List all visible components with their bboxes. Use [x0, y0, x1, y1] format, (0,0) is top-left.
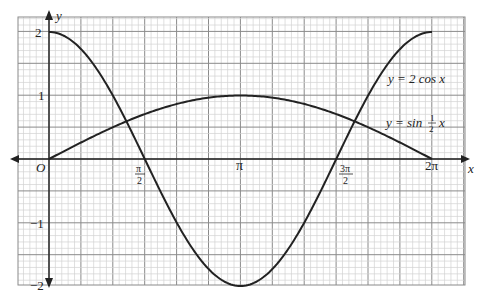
cos-curve-label: y = 2 cos x — [386, 71, 445, 86]
x-tick-three-half-pi-den: 2 — [343, 175, 348, 186]
y-axis-up-arrow-icon — [45, 10, 53, 20]
x-tick-two-pi: 2π — [425, 158, 439, 173]
y-tick-minus-2: −2 — [30, 278, 44, 293]
x-tick-three-half-pi-num: 3π — [340, 163, 350, 174]
svg-text:x: x — [438, 115, 445, 130]
x-tick-pi: π — [236, 158, 243, 173]
grid — [18, 17, 465, 285]
svg-text:y = sin: y = sin — [384, 115, 422, 130]
x-axis-label: x — [467, 161, 474, 176]
svg-text:1: 1 — [430, 113, 435, 123]
chart: y x O 2 1 −1 −2 π 2 π 3π 2 2π y = 2 cos … — [0, 0, 481, 299]
sin-curve-label: y = sin 1 2 x — [384, 113, 445, 134]
origin-label: O — [36, 160, 46, 175]
x-tick-half-pi-den: 2 — [137, 175, 142, 186]
svg-text:2: 2 — [429, 124, 434, 134]
y-tick-1: 1 — [38, 88, 45, 103]
y-tick-minus-1: −1 — [30, 216, 44, 231]
y-tick-2: 2 — [35, 25, 42, 40]
x-tick-half-pi-num: π — [136, 163, 141, 174]
y-axis-down-arrow-icon — [45, 278, 53, 288]
y-axis-label: y — [54, 8, 62, 23]
x-axis-left-arrow-icon — [10, 155, 19, 163]
